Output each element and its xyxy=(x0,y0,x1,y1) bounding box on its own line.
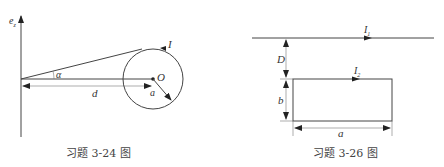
width-label: a xyxy=(338,127,344,139)
figure-3-24: ez α d O a I 习题 3-24 图 xyxy=(9,15,183,160)
radius-label: a xyxy=(150,87,155,98)
ez-axis-label: ez xyxy=(9,15,16,28)
tangent-line xyxy=(21,49,142,79)
height-label: b xyxy=(278,94,284,106)
gap-label: D xyxy=(276,53,285,65)
angle-arc xyxy=(53,71,54,79)
loop-current-label: I2 xyxy=(353,65,360,78)
center-label: O xyxy=(157,71,165,83)
rectangular-loop xyxy=(293,79,392,121)
current-label: I xyxy=(167,38,173,50)
wire-current-label: I1 xyxy=(363,24,370,37)
distance-label: d xyxy=(92,87,98,99)
figure-caption: 习题 3-24 图 xyxy=(66,147,131,160)
figure-caption: 习题 3-26 图 xyxy=(313,147,378,160)
figure-3-26: I1 I2 D b a 习题 3-26 图 xyxy=(252,24,434,160)
diagram-canvas: ez α d O a I 习题 3-24 图 I1 xyxy=(0,0,444,167)
angle-label: α xyxy=(56,69,62,80)
